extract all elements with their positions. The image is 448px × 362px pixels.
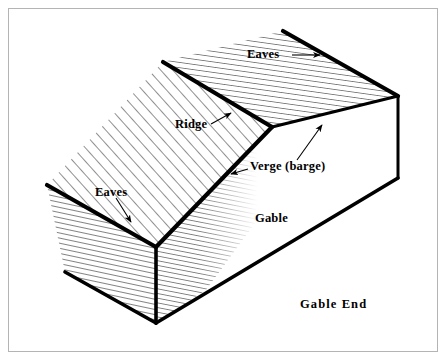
label-ridge: Ridge xyxy=(175,118,207,131)
verge-leader-far xyxy=(297,125,322,160)
gable-roof-illustration xyxy=(0,0,448,362)
label-gable: Gable xyxy=(255,212,288,225)
label-eaves-left: Eaves xyxy=(95,186,127,199)
label-gable-end: Gable End xyxy=(300,298,367,311)
diagram-page: Eaves Eaves Ridge Verge (barge) Gable Ga… xyxy=(0,0,448,362)
label-verge: Verge (barge) xyxy=(250,160,325,173)
label-eaves-top: Eaves xyxy=(247,48,279,61)
